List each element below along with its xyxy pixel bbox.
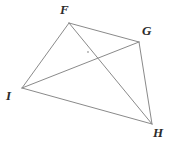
- quadrilateral-sides: [22, 23, 152, 124]
- quadrilateral-diagonals: [22, 23, 152, 124]
- diagonals-intersection-mark: [87, 51, 89, 53]
- edge-hi: [22, 88, 152, 124]
- intersection-dot-icon: [87, 51, 89, 53]
- geometry-figure: F G I H: [0, 0, 169, 147]
- vertex-label-i: I: [6, 89, 11, 102]
- vertex-label-f: F: [60, 3, 69, 16]
- vertex-label-h: H: [153, 126, 163, 139]
- vertex-label-g: G: [142, 24, 151, 37]
- edge-gh: [139, 42, 152, 124]
- edge-fg: [69, 23, 139, 42]
- diagonal-ig: [22, 42, 139, 88]
- diagonal-fh: [69, 23, 152, 124]
